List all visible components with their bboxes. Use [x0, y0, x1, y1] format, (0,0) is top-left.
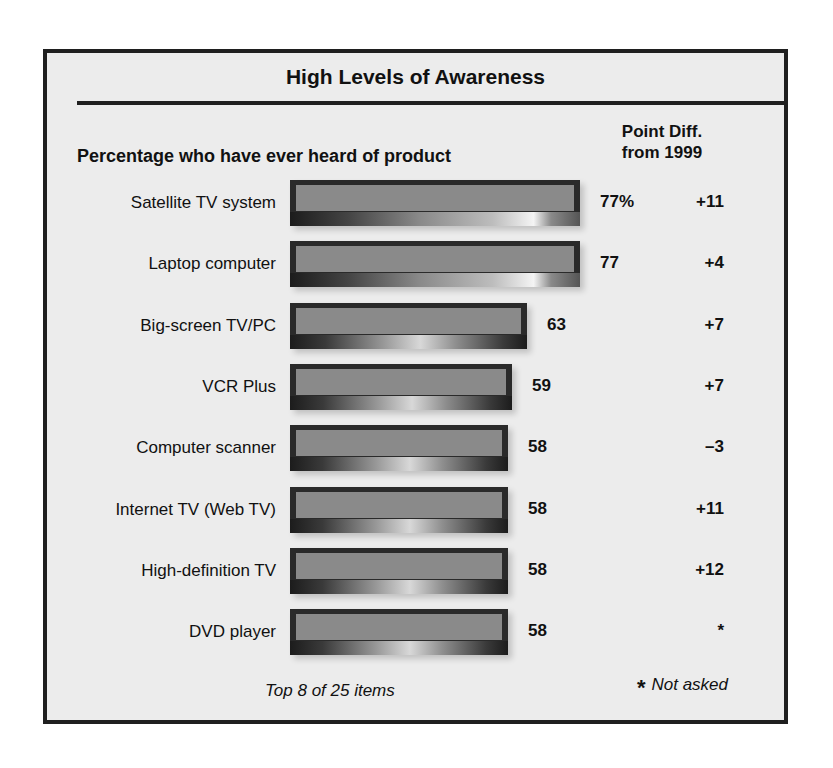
bar-row: Computer scanner58–3 [47, 425, 784, 473]
bar [290, 303, 527, 349]
bar-label: Big-screen TV/PC [140, 316, 276, 336]
footnote-not-asked-text: Not asked [651, 675, 728, 694]
bar-label: Laptop computer [148, 254, 276, 274]
bar-value: 58 [528, 499, 547, 519]
bar-shading [290, 519, 508, 533]
point-diff-value: +7 [644, 315, 724, 335]
chart-title: High Levels of Awareness [47, 65, 784, 89]
point-diff-value: +12 [644, 560, 724, 580]
bar-row: Laptop computer77+4 [47, 241, 784, 289]
point-diff-value: +11 [644, 192, 724, 212]
bar-label: DVD player [189, 622, 276, 642]
bar-row: Internet TV (Web TV)58+11 [47, 487, 784, 535]
bar-value: 58 [528, 621, 547, 641]
bar-label: Satellite TV system [131, 193, 276, 213]
point-diff-header-line2: from 1999 [602, 142, 722, 163]
bar-shading [290, 212, 580, 226]
asterisk-icon: * [637, 675, 646, 700]
bar-value: 77 [600, 253, 619, 273]
footnote-not-asked: *Not asked [637, 675, 728, 701]
bar [290, 180, 580, 226]
bar [290, 609, 508, 655]
bar-shading [290, 335, 527, 349]
bar-fill [296, 246, 574, 272]
bar-shading [290, 273, 580, 287]
bar-label: High-definition TV [141, 561, 276, 581]
bar-value: 63 [547, 315, 566, 335]
bar-fill [296, 430, 502, 456]
bar-value: 77% [600, 192, 634, 212]
point-diff-value: * [644, 621, 724, 641]
bar [290, 241, 580, 287]
point-diff-header-line1: Point Diff. [602, 121, 722, 142]
point-diff-value: –3 [644, 437, 724, 457]
bar-shading [290, 641, 508, 655]
bar-label: Computer scanner [136, 438, 276, 458]
bar [290, 487, 508, 533]
bar-fill [296, 492, 502, 518]
bar-value: 58 [528, 437, 547, 457]
bar-shading [290, 457, 508, 471]
bar-fill [296, 614, 502, 640]
bar-value: 58 [528, 560, 547, 580]
bar-label: VCR Plus [202, 377, 276, 397]
bar-row: DVD player58* [47, 609, 784, 657]
bar-label: Internet TV (Web TV) [115, 500, 276, 520]
chart-subtitle: Percentage who have ever heard of produc… [77, 146, 451, 167]
chart-frame: High Levels of Awareness Percentage who … [43, 49, 788, 724]
bar-shading [290, 396, 512, 410]
point-diff-value: +7 [644, 376, 724, 396]
bar-row: Satellite TV system77%+11 [47, 180, 784, 228]
point-diff-value: +4 [644, 253, 724, 273]
bar-fill [296, 553, 502, 579]
bar [290, 425, 508, 471]
bar-row: Big-screen TV/PC63+7 [47, 303, 784, 351]
title-divider [77, 101, 784, 105]
bar-shading [290, 580, 508, 594]
bar-fill [296, 369, 506, 395]
bar-row: VCR Plus59+7 [47, 364, 784, 412]
bar-fill [296, 308, 521, 334]
point-diff-value: +11 [644, 499, 724, 519]
footnote-top-items: Top 8 of 25 items [265, 681, 395, 701]
bar-row: High-definition TV58+12 [47, 548, 784, 596]
point-diff-header: Point Diff. from 1999 [602, 121, 722, 163]
bar [290, 364, 512, 410]
bar [290, 548, 508, 594]
bar-value: 59 [532, 376, 551, 396]
bar-fill [296, 185, 574, 211]
